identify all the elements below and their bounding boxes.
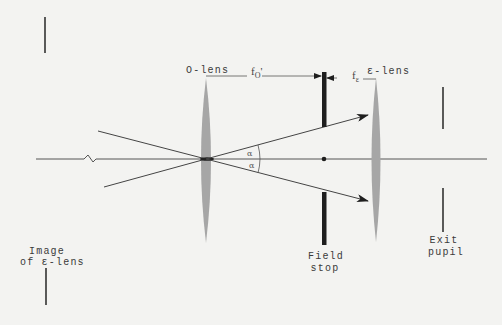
f-e-subscript: ε [356,75,359,84]
focal-point-dot [322,157,327,162]
angle-arc-lower [258,159,260,173]
alpha-upper-label: α [247,148,252,159]
e-lens-label: ε-lens [367,66,410,77]
exit-pupil-label-line1: Exit [428,235,460,246]
o-lens-label: O-lens [186,65,229,76]
image-of-e-lens-label-line1: Image [22,246,72,257]
f-e-label: fε [352,70,359,85]
field-stop-label-line2: stop [308,263,342,274]
outgoing-ray-upper [206,115,368,159]
field-stop-upper-bar [322,72,327,127]
alpha-lower-label: α [249,160,254,171]
field-stop-lower-bar [322,192,327,245]
f-o-prime-label: fO' [251,66,262,81]
exit-pupil-label-line2: pupil [428,247,460,258]
incoming-ray-lower [104,159,206,187]
incoming-ray-upper [98,131,206,159]
field-stop-label-line1: Field [308,251,342,262]
prime-mark: ' [260,65,262,77]
e-lens [372,78,381,242]
optical-axis [36,155,487,162]
angle-arc-upper [258,145,260,159]
image-of-e-lens-label-line2: of ε-lens [20,257,85,268]
outgoing-ray-lower [206,159,368,201]
